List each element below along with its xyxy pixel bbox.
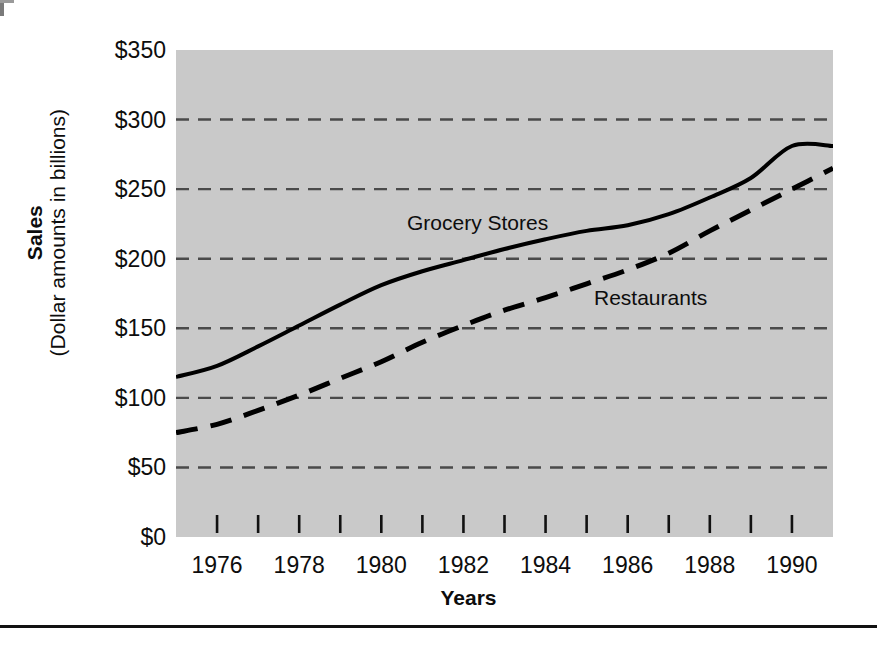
plot-area — [176, 50, 833, 537]
x-axis-tick-label: 1978 — [274, 552, 325, 579]
x-axis-tick-label: 1982 — [438, 552, 489, 579]
y-axis-tick-label: $350 — [6, 37, 166, 64]
plot-canvas — [176, 50, 833, 537]
chart-figure: Sales (Dollar amounts in billions) $0$50… — [0, 0, 877, 647]
y-axis-tick-label: $50 — [6, 454, 166, 481]
y-axis-tick-label: $300 — [6, 106, 166, 133]
y-axis-tick-label: $200 — [6, 245, 166, 272]
x-axis-label: Years — [0, 586, 877, 610]
x-axis-tick-label: 1976 — [191, 552, 242, 579]
y-axis-tick-label: $150 — [6, 315, 166, 342]
x-axis-tick-label: 1984 — [520, 552, 571, 579]
scan-edge — [0, 0, 877, 2]
x-axis-label-text: Years — [440, 586, 496, 610]
series-line-grocery-stores — [176, 144, 833, 377]
x-axis-tick-label: 1980 — [356, 552, 407, 579]
series-line-restaurants — [176, 168, 833, 432]
y-axis-tick-label: $250 — [6, 176, 166, 203]
x-axis-tick-label: 1988 — [684, 552, 735, 579]
x-axis-tick-label: 1986 — [602, 552, 653, 579]
footer-rule — [0, 625, 877, 628]
x-axis-tick-label: 1990 — [766, 552, 817, 579]
series-annotation-grocery-stores: Grocery Stores — [407, 211, 548, 235]
y-axis-tick-label: $100 — [6, 384, 166, 411]
scan-corner-mark-horizontal — [0, 0, 14, 3]
y-axis-tick-label: $0 — [6, 524, 166, 551]
series-annotation-restaurants: Restaurants — [594, 286, 707, 310]
y-axis-tick-labels: $0$50$100$150$200$250$300$350 — [0, 50, 166, 537]
